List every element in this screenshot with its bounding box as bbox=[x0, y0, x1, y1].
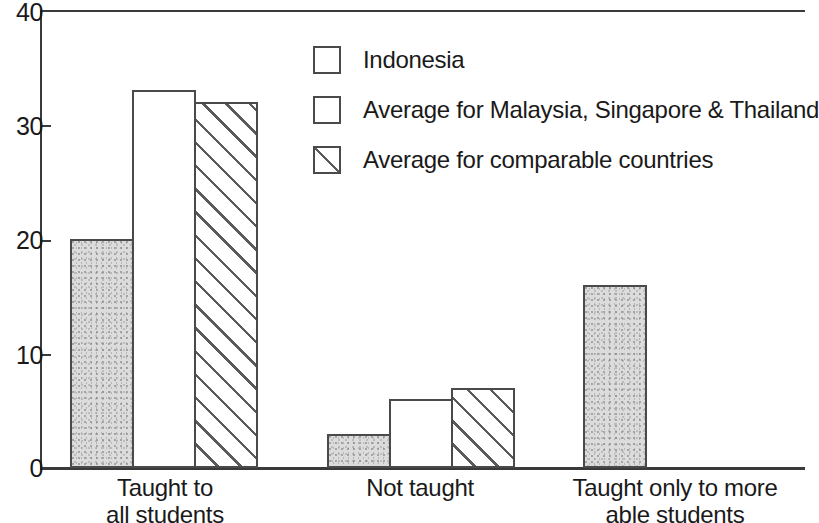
legend-label-average-malaysia-singapore-thailand: Average for Malaysia, Singapore & Thaila… bbox=[363, 95, 819, 124]
x-category-label-not-taught: Not taught bbox=[330, 474, 510, 501]
bar-avg-comparable-not-taught bbox=[451, 388, 515, 468]
bar-indonesia-taught-to-all-students bbox=[70, 239, 134, 468]
y-tick-label-20: 20 bbox=[16, 228, 43, 253]
y-tick-label-10: 10 bbox=[16, 343, 43, 368]
legend-label-indonesia: Indonesia bbox=[363, 45, 464, 74]
y-tick-label-30: 30 bbox=[16, 114, 43, 139]
bar-avg-msm-taught-to-all-students bbox=[132, 90, 196, 468]
bar-avg-msm-not-taught bbox=[389, 399, 453, 468]
plot-area bbox=[40, 10, 805, 468]
bar-indonesia-taught-only-to-more-able-students bbox=[583, 285, 647, 468]
y-tick-label-40: 40 bbox=[16, 0, 43, 25]
hatch-swatch-icon bbox=[313, 146, 341, 174]
empty-swatch-icon bbox=[313, 96, 341, 124]
legend-label-average-comparable-countries: Average for comparable countries bbox=[363, 145, 713, 174]
stipple-swatch-icon bbox=[313, 46, 341, 74]
bar-indonesia-not-taught bbox=[327, 434, 391, 468]
x-category-label-taught-only-to-more-able-students: Taught only to more able students bbox=[545, 474, 805, 523]
x-category-label-taught-to-all-students: Taught to all students bbox=[55, 474, 275, 523]
bar-avg-comparable-taught-to-all-students bbox=[194, 102, 258, 468]
